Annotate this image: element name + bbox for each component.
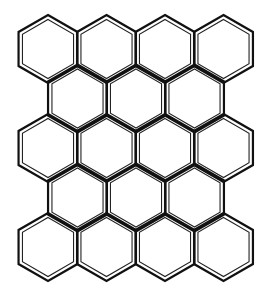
hexagon-outer-outline (107, 65, 166, 133)
hexagon-outer-outline (107, 164, 166, 232)
hexagon-outer-outline (194, 213, 253, 281)
hexagon-outer-outline (136, 15, 195, 83)
hexagon-outer-outline (77, 114, 136, 182)
hexagon-cell (165, 65, 224, 133)
hexagon-cell (48, 164, 107, 232)
hexagon-outer-outline (194, 114, 253, 182)
hexagon-outer-outline (136, 213, 195, 281)
hexagon-outer-outline (194, 15, 253, 83)
hexagon-outer-outline (19, 114, 78, 182)
hexagon-cell (136, 213, 195, 281)
hexagon-cell (19, 213, 78, 281)
hexagon-inner-outline (22, 20, 73, 79)
hexagon-cell (77, 15, 136, 83)
hexagon-cell (194, 15, 253, 83)
hexagon-inner-outline (22, 119, 73, 178)
hexagon-cell (77, 213, 136, 281)
hexagon-outer-outline (77, 213, 136, 281)
hexagon-outer-outline (165, 164, 224, 232)
hexagon-cell (136, 15, 195, 83)
hexagon-outer-outline (136, 114, 195, 182)
hexagon-cell (107, 65, 166, 133)
hexagon-cell (19, 114, 78, 182)
hexagon-outer-outline (48, 164, 107, 232)
hexagon-cell (19, 15, 78, 83)
hexagon-outer-outline (48, 65, 107, 133)
honeycomb-diagram (0, 0, 267, 294)
hexagon-cell (194, 213, 253, 281)
hexagon-outer-outline (165, 65, 224, 133)
hexagon-cell (48, 65, 107, 133)
hexagon-cell (77, 114, 136, 182)
hexagon-cell (107, 164, 166, 232)
hexagon-inner-outline (22, 218, 73, 277)
hexagon-cell (165, 164, 224, 232)
hexagon-cell (194, 114, 253, 182)
hexagon-outer-outline (19, 213, 78, 281)
hexagon-cell (136, 114, 195, 182)
hexagon-outer-outline (19, 15, 78, 83)
hexagon-outer-outline (77, 15, 136, 83)
